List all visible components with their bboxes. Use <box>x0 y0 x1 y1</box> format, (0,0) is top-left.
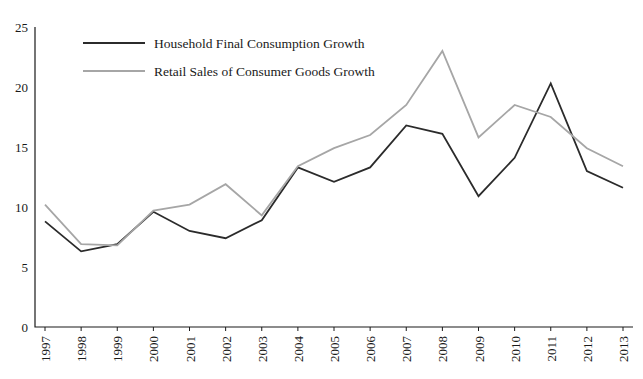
x-tick-label-2010: 2010 <box>508 336 523 362</box>
x-tick-label-2006: 2006 <box>363 336 378 363</box>
x-tick-label-2007: 2007 <box>399 336 414 363</box>
y-tick-label-0: 0 <box>22 320 29 335</box>
x-tick-label-2003: 2003 <box>255 336 270 362</box>
legend-label-1: Household Final Consumption Growth <box>154 36 365 51</box>
y-tick-label-20: 20 <box>15 80 28 95</box>
x-tick-label-1997: 1997 <box>38 336 53 363</box>
series-line-2 <box>45 51 623 245</box>
series-line-1 <box>45 83 623 251</box>
x-tick-label-2004: 2004 <box>291 336 306 363</box>
y-tick-label-10: 10 <box>15 200 28 215</box>
line-chart: 0510152025 19971998199920002001200220032… <box>0 0 643 379</box>
y-axis-tick-labels: 0510152025 <box>15 20 28 335</box>
x-tick-label-2011: 2011 <box>544 336 559 362</box>
x-tick-label-2008: 2008 <box>435 336 450 362</box>
x-tick-label-2012: 2012 <box>580 336 595 362</box>
x-tick-label-2002: 2002 <box>219 336 234 362</box>
legend-label-2: Retail Sales of Consumer Goods Growth <box>154 64 375 79</box>
x-tick-label-1998: 1998 <box>74 336 89 362</box>
y-tick-label-5: 5 <box>22 260 29 275</box>
chart-container: 0510152025 19971998199920002001200220032… <box>0 0 643 379</box>
y-tick-label-15: 15 <box>15 140 28 155</box>
x-tick-label-2005: 2005 <box>327 336 342 362</box>
x-tick-label-2013: 2013 <box>616 336 631 362</box>
x-tick-label-2009: 2009 <box>472 336 487 362</box>
y-tick-label-25: 25 <box>15 20 28 35</box>
x-axis-tick-labels: 1997199819992000200120022003200420052006… <box>38 327 631 362</box>
x-tick-label-2001: 2001 <box>183 336 198 362</box>
chart-legend: Household Final Consumption GrowthRetail… <box>83 36 375 79</box>
x-tick-label-2000: 2000 <box>146 336 161 362</box>
chart-series <box>45 51 623 251</box>
x-tick-label-1999: 1999 <box>110 336 125 362</box>
